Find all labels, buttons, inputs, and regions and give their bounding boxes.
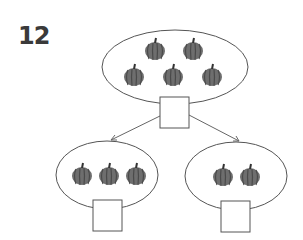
pumpkin-icon bbox=[163, 64, 183, 86]
part-left-answer-box[interactable] bbox=[93, 200, 122, 231]
whole-oval bbox=[102, 30, 248, 104]
part-right-answer-box[interactable] bbox=[221, 201, 250, 232]
pumpkin-icon bbox=[124, 64, 144, 86]
pumpkin-icon bbox=[99, 163, 119, 185]
arrow-left bbox=[111, 115, 162, 140]
arrow-right bbox=[189, 115, 239, 141]
pumpkin-icon bbox=[145, 38, 165, 60]
pumpkin-icon bbox=[213, 164, 233, 186]
part-left-oval bbox=[56, 141, 158, 209]
pumpkin-icon bbox=[126, 163, 146, 185]
pumpkin-icon bbox=[72, 163, 92, 185]
pumpkin-icon bbox=[240, 164, 260, 186]
whole-answer-box[interactable] bbox=[160, 97, 189, 128]
pumpkin-icon bbox=[183, 38, 203, 60]
pumpkin-icon bbox=[202, 64, 222, 86]
number-bond-diagram bbox=[0, 0, 303, 240]
part-right-oval bbox=[185, 142, 287, 210]
